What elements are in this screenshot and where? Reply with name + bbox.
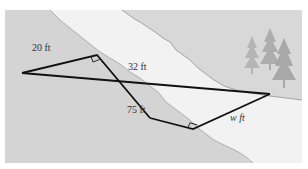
river-triangle-diagram: 20 ft 32 ft 75 ft w ft bbox=[0, 0, 308, 169]
label-75-ft: 75 ft bbox=[127, 104, 146, 115]
label-w-ft: w ft bbox=[230, 112, 245, 123]
label-20-ft: 20 ft bbox=[32, 42, 51, 53]
label-32-ft: 32 ft bbox=[128, 61, 147, 72]
